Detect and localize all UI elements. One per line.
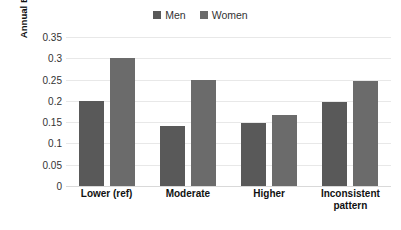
plot-area xyxy=(66,37,391,186)
bar-women[interactable] xyxy=(353,81,378,186)
legend-swatch-icon-men xyxy=(153,11,161,19)
bar-men[interactable] xyxy=(160,126,185,186)
bar-men[interactable] xyxy=(79,101,104,186)
bar-group xyxy=(147,37,228,186)
bar-women[interactable] xyxy=(272,115,297,186)
y-axis-tick-label: 0.15 xyxy=(43,117,62,128)
bar-chart: Men Women Annual BMI change (kg m−2) 00.… xyxy=(0,0,401,230)
legend-item-women: Women xyxy=(200,10,248,21)
chart-legend: Men Women xyxy=(0,7,401,23)
bar-groups xyxy=(66,37,391,186)
y-axis-tick-label: 0.25 xyxy=(43,74,62,85)
bar-men[interactable] xyxy=(241,123,266,186)
x-axis-category-label: Moderate xyxy=(147,188,228,212)
x-axis-category-label: Lower (ref) xyxy=(66,188,147,212)
bar-women[interactable] xyxy=(110,58,135,186)
bar-group xyxy=(66,37,147,186)
y-axis-tick-labels: 00.050.10.150.20.250.30.35 xyxy=(30,37,62,186)
y-axis-tick-label: 0.3 xyxy=(48,53,62,64)
legend-swatch-icon-women xyxy=(200,11,208,19)
y-axis-title-main: Annual BMI change (kg m xyxy=(18,0,29,38)
bar-men[interactable] xyxy=(322,102,347,186)
bar-group xyxy=(310,37,391,186)
x-axis-category-label: Inconsistent pattern xyxy=(310,188,391,212)
y-axis-tick-label: 0.35 xyxy=(43,32,62,43)
legend-label-men: Men xyxy=(165,10,185,21)
bar-group xyxy=(229,37,310,186)
y-axis-title-text: Annual BMI change (kg m−2) xyxy=(17,0,29,38)
y-axis-tick-label: 0.05 xyxy=(43,159,62,170)
bar-women[interactable] xyxy=(191,80,216,186)
x-axis-category-labels: Lower (ref)ModerateHigherInconsistent pa… xyxy=(66,188,391,212)
x-axis-category-label: Higher xyxy=(229,188,310,212)
y-axis-title: Annual BMI change (kg m−2) xyxy=(16,0,30,50)
y-axis-tick-label: 0.2 xyxy=(48,95,62,106)
y-axis-tick-label: 0.1 xyxy=(48,138,62,149)
gridline xyxy=(66,186,391,187)
legend-label-women: Women xyxy=(212,10,248,21)
y-axis-tick-label: 0 xyxy=(56,181,62,192)
legend-item-men: Men xyxy=(153,10,185,21)
